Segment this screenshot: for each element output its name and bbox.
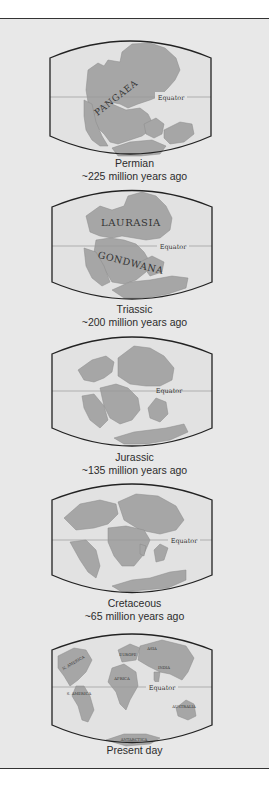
caption-permian: Permian ~225 million years ago bbox=[0, 157, 269, 183]
period-age: ~135 million years ago bbox=[0, 464, 269, 477]
period-name: Jurassic bbox=[0, 451, 269, 464]
map-triassic: Equator LAURASIA GONDWANA bbox=[0, 186, 269, 304]
label-laurasia: LAURASIA bbox=[101, 217, 161, 228]
label-antarctica: ANTARCTICA bbox=[120, 737, 148, 742]
label-europe: EUROPE bbox=[119, 652, 136, 657]
map-present-day: Equator N. AMERICA EUROPE ASIA AFRICA IN… bbox=[0, 630, 269, 748]
period-name: Cretaceous bbox=[0, 597, 269, 610]
label-asia: ASIA bbox=[146, 646, 157, 651]
equator-label: Equator bbox=[158, 94, 185, 102]
caption-cretaceous: Cretaceous ~65 million years ago bbox=[0, 597, 269, 623]
period-name: Present day bbox=[0, 744, 269, 757]
permian-map-graphic: Equator PANGAEA bbox=[0, 38, 269, 158]
period-age: ~200 million years ago bbox=[0, 316, 269, 329]
period-age: ~65 million years ago bbox=[0, 610, 269, 623]
period-name: Triassic bbox=[0, 303, 269, 316]
period-age: ~225 million years ago bbox=[0, 170, 269, 183]
equator-label: Equator bbox=[149, 684, 176, 692]
map-jurassic: Equator bbox=[0, 333, 269, 451]
triassic-map-graphic: Equator LAURASIA GONDWANA bbox=[0, 186, 269, 304]
period-name: Permian bbox=[0, 157, 269, 170]
caption-jurassic: Jurassic ~135 million years ago bbox=[0, 451, 269, 477]
cretaceous-map-graphic: Equator bbox=[0, 480, 269, 596]
label-south-america: S. AMERICA bbox=[67, 691, 92, 696]
label-australia: AUSTRALIA bbox=[171, 704, 196, 709]
caption-triassic: Triassic ~200 million years ago bbox=[0, 303, 269, 329]
map-cretaceous: Equator bbox=[0, 480, 269, 596]
caption-present-day: Present day bbox=[0, 744, 269, 757]
jurassic-map-graphic: Equator bbox=[0, 333, 269, 451]
equator-label: Equator bbox=[171, 537, 198, 545]
present-day-map-graphic: Equator N. AMERICA EUROPE ASIA AFRICA IN… bbox=[0, 630, 269, 748]
equator-label: Equator bbox=[156, 387, 183, 395]
equator-label: Equator bbox=[160, 243, 187, 251]
label-africa: AFRICA bbox=[113, 676, 130, 681]
map-permian: Equator PANGAEA bbox=[0, 38, 269, 158]
label-india: INDIA bbox=[158, 665, 170, 670]
